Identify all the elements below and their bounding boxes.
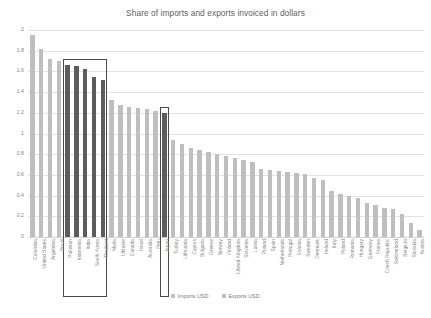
x-axis-tick-label: Slovakia xyxy=(413,239,418,258)
x-axis-tick-label: Australia xyxy=(149,239,154,258)
x-axis-tick-label: Peru xyxy=(157,239,162,249)
x-axis-tick-label: Finland xyxy=(228,239,233,255)
y-axis-tick-label: 0.4 xyxy=(17,193,24,198)
legend-label: Imports USD xyxy=(177,293,208,299)
y-axis: 00.20.40.60.811.21.41.61.82 xyxy=(0,30,26,237)
x-axis-tick-label: Romania xyxy=(351,239,356,259)
x-axis-tick-label: Greece xyxy=(210,239,215,255)
bar xyxy=(241,160,246,237)
legend-swatch xyxy=(222,294,226,298)
x-axis-tick-label: France xyxy=(377,239,382,254)
bar xyxy=(224,156,229,237)
y-axis-tick-label: 1.2 xyxy=(17,110,24,115)
bar xyxy=(127,107,132,237)
bar xyxy=(303,174,308,237)
x-axis-tick-label: Pakistan xyxy=(69,239,74,258)
y-axis-tick-label: 2 xyxy=(21,27,24,32)
bar xyxy=(109,100,114,237)
x-axis-tick-label: Argentina xyxy=(52,239,57,260)
x-axis-tick-label: Poland xyxy=(342,239,347,254)
x-axis-tick-label: Ireland xyxy=(325,239,330,254)
x-axis-tick-label: India xyxy=(87,239,92,250)
bar xyxy=(118,105,123,237)
bar xyxy=(57,61,62,237)
bar xyxy=(294,173,299,237)
y-axis-tick-label: 1.6 xyxy=(17,69,24,74)
y-axis-tick-label: 0.6 xyxy=(17,172,24,177)
bar xyxy=(268,170,273,237)
x-axis-tick-label: Canada xyxy=(131,239,136,256)
x-axis-tick-label: Malta xyxy=(113,239,118,251)
bar xyxy=(206,152,211,237)
x-axis-tick-label: Czech Republic xyxy=(386,239,391,273)
x-axis-tick-label: Brazil xyxy=(61,239,66,251)
chart-legend: Imports USDExports USD xyxy=(0,293,431,299)
x-axis-tick-label: Sweden xyxy=(307,239,312,257)
bar xyxy=(356,198,361,237)
x-axis-tick-label: Colombia xyxy=(34,239,39,260)
x-axis-tick-label: Netherlands xyxy=(281,239,286,265)
x-axis-tick-label: Israel xyxy=(140,239,145,251)
bar xyxy=(365,203,370,237)
x-axis-tick-label: Spain xyxy=(272,239,277,252)
y-axis-tick-label: 1.8 xyxy=(17,48,24,53)
x-axis-tick-label: Denmark xyxy=(316,239,321,259)
bar xyxy=(277,171,282,237)
bar xyxy=(338,194,343,237)
bar xyxy=(312,178,317,237)
bar xyxy=(215,154,220,237)
bar xyxy=(373,205,378,237)
x-axis-tick-label: Japan xyxy=(166,239,171,252)
bar xyxy=(321,180,326,237)
x-axis-tick-label: Turkey xyxy=(175,239,180,254)
x-axis-tick-label: Latvia xyxy=(254,239,259,252)
legend-item[interactable]: Imports USD xyxy=(171,293,208,299)
x-axis-tick-label: Belgium xyxy=(404,239,409,257)
x-axis-tick-label: Indonesia xyxy=(78,239,83,260)
bar xyxy=(153,111,158,237)
y-axis-tick-label: 0 xyxy=(21,234,24,239)
x-axis-tick-label: Estonia xyxy=(298,239,303,255)
bar xyxy=(409,223,414,237)
x-axis-tick-label: Portugal xyxy=(289,239,294,257)
x-axis-tick-label: Italy xyxy=(333,239,338,248)
x-axis-tick-label: Germany xyxy=(369,239,374,259)
x-axis-tick-label: United Kingdom xyxy=(237,239,242,274)
x-axis-tick-label: Poland xyxy=(263,239,268,254)
legend-item[interactable]: Exports USD xyxy=(222,293,259,299)
x-axis-tick-label: South Korea xyxy=(96,239,101,266)
bar xyxy=(285,172,290,237)
bar xyxy=(391,209,396,237)
bar xyxy=(171,140,176,237)
x-axis-tick-label: Ukraine xyxy=(122,239,127,256)
bar xyxy=(233,158,238,237)
bar xyxy=(197,150,202,237)
y-axis-tick-label: 1 xyxy=(21,131,24,136)
x-axis-tick-label: Hungary xyxy=(360,239,365,258)
x-axis-labels: ColombiaUnited StatesArgentinaBrazilPaki… xyxy=(28,239,424,301)
bar xyxy=(145,109,150,237)
bar xyxy=(180,144,185,237)
bar xyxy=(259,169,264,237)
bar xyxy=(347,196,352,237)
bar xyxy=(417,230,422,237)
legend-swatch xyxy=(171,294,175,298)
chart-title: Share of imports and exports invoiced in… xyxy=(0,8,431,18)
bar xyxy=(39,49,44,237)
bar xyxy=(136,108,141,237)
y-axis-tick-label: 1.4 xyxy=(17,89,24,94)
y-axis-tick-label: 0.8 xyxy=(17,152,24,157)
x-axis-tick-label: Slovenia xyxy=(245,239,250,258)
y-axis-tick-label: 0.2 xyxy=(17,214,24,219)
bar-chart: Share of imports and exports invoiced in… xyxy=(0,0,431,318)
x-axis-tick-label: United States xyxy=(43,239,48,268)
bar xyxy=(329,191,334,237)
plot-area xyxy=(28,30,424,237)
x-axis-tick-label: Lithuania xyxy=(184,239,189,259)
bar xyxy=(400,214,405,237)
x-axis-tick-label: Switzerland xyxy=(395,239,400,264)
x-axis-tick-label: Austria xyxy=(421,239,426,254)
x-axis-tick-label: Cyprus xyxy=(193,239,198,255)
bar xyxy=(382,208,387,237)
x-axis-tick-label: Norway xyxy=(219,239,224,256)
